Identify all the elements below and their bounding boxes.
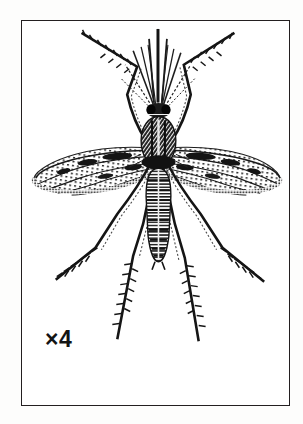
thorax: [141, 117, 176, 170]
illustration-plate: ×4: [0, 0, 303, 424]
magnification-caption: ×4: [45, 328, 72, 351]
foreleg-right: [168, 33, 235, 144]
head: [146, 103, 170, 118]
abdomen: [146, 168, 171, 269]
